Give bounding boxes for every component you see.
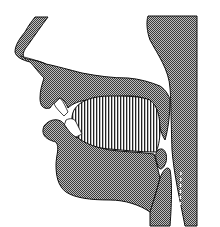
vocal-tract-diagram [0,0,220,227]
